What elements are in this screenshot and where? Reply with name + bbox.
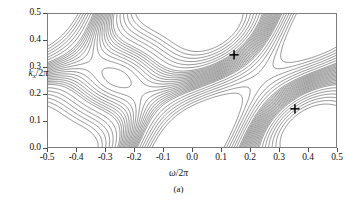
- plot-area: [47, 13, 337, 148]
- contour-line: [131, 13, 247, 55]
- y-axis-label: kx/2π: [0, 68, 48, 80]
- contour-plot-svg: [47, 13, 337, 148]
- y-tick-mark: [43, 148, 47, 149]
- contour-line: [47, 102, 102, 148]
- contour-line: [47, 74, 131, 148]
- y-tick-label: 0.5: [0, 7, 41, 18]
- figure-caption: (a): [0, 184, 357, 194]
- figure-caption-text: (a): [174, 184, 184, 194]
- contour-line: [47, 80, 125, 148]
- y-tick-mark: [43, 13, 47, 14]
- y-tick-mark: [43, 121, 47, 122]
- contour-line: [281, 13, 337, 62]
- contour-line: [47, 13, 102, 72]
- contour-line: [47, 13, 96, 65]
- contour-line: [47, 83, 122, 148]
- contour-figure: -0.5-0.4-0.3-0.2-0.10.00.10.20.30.40.5 0…: [0, 0, 357, 206]
- y-tick-mark: [43, 40, 47, 41]
- contour-line: [259, 85, 337, 148]
- contour-line: [47, 88, 117, 148]
- contour-line: [276, 101, 337, 148]
- contour-line: [47, 91, 113, 148]
- x-axis-label-text: ω/2π: [169, 168, 188, 178]
- contour-line: [47, 94, 110, 148]
- x-tick-label: 0.5: [317, 152, 357, 163]
- contour-line: [108, 13, 267, 76]
- plus-marker-icon: [290, 104, 299, 113]
- y-tick-label: 0.0: [0, 142, 41, 153]
- y-tick-label: 0.4: [0, 34, 41, 45]
- y-tick-label: 0.1: [0, 115, 41, 126]
- y-tick-mark: [43, 94, 47, 95]
- contour-line: [280, 104, 337, 148]
- contour-line: [255, 80, 337, 148]
- contour-line: [149, 87, 250, 148]
- y-axis-label-text: kx/2π: [29, 68, 48, 78]
- contour-line: [47, 85, 120, 148]
- contour-line: [136, 13, 244, 52]
- contour-line: [47, 78, 127, 148]
- contour-line: [102, 68, 131, 88]
- y-tick-label: 0.2: [0, 88, 41, 99]
- x-axis-label: ω/2π: [0, 168, 357, 178]
